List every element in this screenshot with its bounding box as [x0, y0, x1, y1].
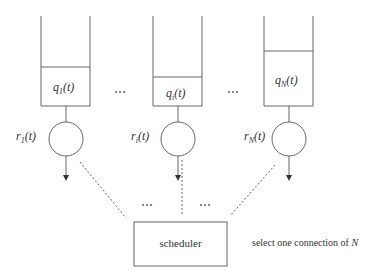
ellipsis-top-right: ⋯ [227, 85, 240, 100]
queue-scheduler-diagram: q1(t) qi(t) qN(t) r1(t) ri(t) rN(t) ⋯ ⋯ … [0, 0, 377, 277]
rate-i-label: ri(t) [131, 130, 149, 145]
scheduler-label: scheduler [134, 238, 227, 249]
queue-1-label: q1(t) [53, 81, 74, 96]
diagram-graphics [0, 0, 377, 277]
queue-i-label: qi(t) [166, 87, 186, 102]
ellipsis-bottom-right: ⋯ [199, 198, 212, 213]
server-i-circle [161, 122, 195, 156]
queue-1 [41, 16, 90, 178]
queue-N [264, 16, 313, 178]
rate-N-label: rN(t) [244, 130, 265, 145]
rate-1-label: r1(t) [16, 130, 36, 145]
server-1-circle [49, 122, 83, 156]
ellipsis-top-left: ⋯ [114, 85, 127, 100]
queue-N-label: qN(t) [275, 74, 298, 89]
ellipsis-bottom-left: ⋯ [141, 198, 154, 213]
server-N-circle [272, 122, 306, 156]
selection-annotation: select one connection of N [252, 238, 358, 248]
